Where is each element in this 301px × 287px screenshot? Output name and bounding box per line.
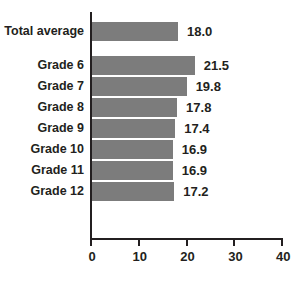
bar-category-label: Total average (0, 21, 84, 42)
bar-row: Grade 917.4 (0, 118, 301, 139)
bar-chart: 010203040 Total average18.0Grade 621.5Gr… (0, 0, 301, 287)
bar-category-label: Grade 6 (0, 55, 84, 76)
bar-value-label: 17.2 (183, 181, 208, 202)
bar (92, 22, 178, 41)
bar-row: Grade 1016.9 (0, 139, 301, 160)
plot-area: 010203040 Total average18.0Grade 621.5Gr… (0, 0, 301, 287)
bar-value-label: 16.9 (182, 139, 207, 160)
bar-category-label: Grade 8 (0, 97, 84, 118)
x-tick-mark (281, 240, 283, 246)
bar-value-label: 18.0 (187, 21, 212, 42)
bar-category-label: Grade 12 (0, 181, 84, 202)
bar-row: Total average18.0 (0, 21, 301, 42)
bar-row: Grade 621.5 (0, 55, 301, 76)
bar (92, 119, 175, 138)
bar (92, 182, 174, 201)
bar-category-label: Grade 10 (0, 139, 84, 160)
bar (92, 140, 173, 159)
bar-category-label: Grade 9 (0, 118, 84, 139)
x-tick-mark (90, 240, 92, 246)
bar-value-label: 16.9 (182, 160, 207, 181)
bar-row: Grade 817.8 (0, 97, 301, 118)
bar (92, 98, 177, 117)
bar (92, 161, 173, 180)
bar-value-label: 17.4 (184, 118, 209, 139)
bar-category-label: Grade 7 (0, 76, 84, 97)
x-tick-label: 30 (215, 249, 255, 264)
bar (92, 77, 187, 96)
bar-value-label: 21.5 (204, 55, 229, 76)
bar-row: Grade 719.8 (0, 76, 301, 97)
bar-value-label: 17.8 (186, 97, 211, 118)
x-tick-label: 10 (120, 249, 160, 264)
bar-value-label: 19.8 (196, 76, 221, 97)
x-tick-mark (138, 240, 140, 246)
bar-category-label: Grade 11 (0, 160, 84, 181)
bar-row: Grade 1116.9 (0, 160, 301, 181)
bar-row: Grade 1217.2 (0, 181, 301, 202)
x-tick-label: 40 (263, 249, 301, 264)
x-tick-label: 20 (168, 249, 208, 264)
x-tick-mark (233, 240, 235, 246)
bar (92, 56, 195, 75)
x-tick-mark (186, 240, 188, 246)
x-tick-label: 0 (72, 249, 112, 264)
